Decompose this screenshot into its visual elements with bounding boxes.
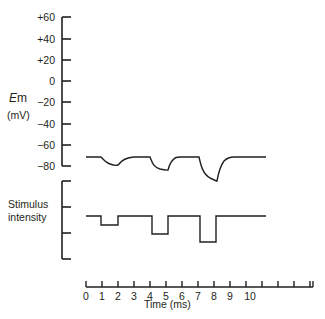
stimulus-axis (62, 181, 71, 259)
time-tick-label: 9 (222, 290, 238, 302)
em-axis-label: Em (9, 92, 27, 104)
stimulus-label-line1: Stimulus (8, 198, 48, 211)
time-axis (86, 281, 313, 287)
em-tick-label: −80 (15, 160, 55, 172)
time-tick-label: 7 (190, 290, 206, 302)
em-tick-label: −60 (15, 139, 55, 151)
time-tick-label: 3 (126, 290, 142, 302)
em-tick-label: +40 (15, 33, 55, 45)
stimulus-label-line2: intensity (8, 211, 48, 224)
time-tick-label: 1 (94, 290, 110, 302)
time-axis-label: Time (ms) (144, 298, 191, 310)
em-axis (62, 17, 71, 166)
time-tick-label: 2 (110, 290, 126, 302)
time-tick-label: 8 (206, 290, 222, 302)
em-unit-label: (mV) (7, 109, 30, 121)
em-tick-label: +20 (15, 54, 55, 66)
em-subscript: m (17, 91, 27, 105)
membrane-potential-trace (86, 157, 266, 181)
em-symbol: E (9, 91, 17, 105)
time-tick-label: 0 (78, 290, 94, 302)
stimulus-trace (86, 216, 266, 242)
time-tick-label: 10 (240, 290, 260, 302)
em-tick-label: 0 (15, 75, 55, 87)
em-tick-label: +60 (15, 11, 55, 23)
stimulus-axis-label: Stimulus intensity (8, 198, 48, 223)
